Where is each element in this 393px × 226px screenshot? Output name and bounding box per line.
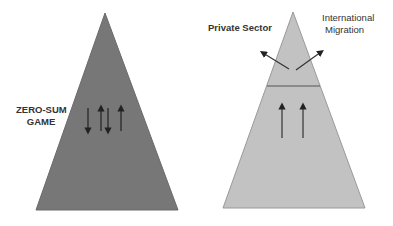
international-migration-label: International Migration xyxy=(322,12,374,36)
zero-sum-label-line1: ZERO-SUM xyxy=(16,104,66,116)
intl-migration-line1: International xyxy=(322,12,374,24)
private-sector-label: Private Sector xyxy=(208,22,272,34)
zero-sum-label: ZERO-SUM GAME xyxy=(16,104,66,128)
zero-sum-label-line2: GAME xyxy=(16,116,66,128)
right-pyramid xyxy=(223,12,365,208)
intl-migration-line2: Migration xyxy=(322,24,374,36)
diagram-canvas: ZERO-SUM GAME Private Sector Internation… xyxy=(0,0,393,226)
